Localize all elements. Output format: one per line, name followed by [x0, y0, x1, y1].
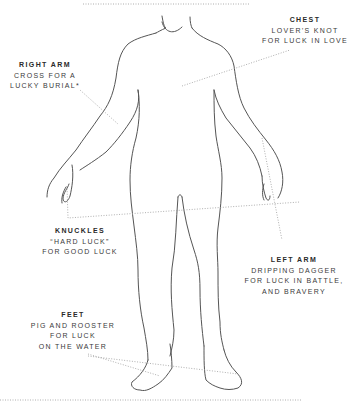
- chest-line-1: LOVER’S KNOT: [260, 26, 350, 37]
- neck-right: [190, 17, 192, 28]
- left-arm-outer: [192, 28, 283, 198]
- feet-line-1: PIG AND ROOSTER: [25, 321, 121, 332]
- crotch: [178, 195, 182, 197]
- right-arm-leader: [80, 90, 118, 124]
- chest-line-2: FOR LUCK IN LOVE: [260, 36, 350, 47]
- right-arm-title: RIGHT ARM: [5, 60, 85, 71]
- left-arm-inner: [214, 90, 262, 176]
- leg-inner-right: [182, 197, 204, 346]
- knuckles-line-2: FOR GOOD LUCK: [35, 247, 125, 258]
- chest-title: CHEST: [260, 15, 350, 26]
- left-arm-annotation: LEFT ARM DRIPPING DAGGER FOR LUCK IN BAT…: [238, 255, 350, 297]
- right-arm-inner: [80, 90, 139, 170]
- left-arm-title: LEFT ARM: [238, 255, 350, 266]
- feet-annotation: FEET PIG AND ROOSTER FOR LUCK ON THE WAT…: [25, 310, 121, 352]
- torso-right: [214, 90, 224, 350]
- leg-inner-left: [170, 197, 178, 356]
- right-arm-outer: [47, 33, 156, 197]
- right-arm-line-1: CROSS FOR A: [5, 71, 85, 82]
- knuckles-title: KNUCKLES: [35, 226, 125, 237]
- knuckles-line-1: “HARD LUCK”: [35, 237, 125, 248]
- feet-leader-2: [88, 356, 238, 374]
- chest-annotation: CHEST LOVER’S KNOT FOR LUCK IN LOVE: [260, 15, 350, 47]
- torso-left: [130, 90, 148, 360]
- right-foot: [131, 344, 172, 391]
- right-arm-line-2: LUCKY BURIAL*: [5, 81, 85, 92]
- neck-left: [156, 16, 166, 33]
- left-hand: [262, 176, 270, 200]
- feet-line-2: FOR LUCK: [25, 331, 121, 342]
- left-arm-line-2: FOR LUCK IN BATTLE,: [238, 276, 350, 287]
- right-arm-annotation: RIGHT ARM CROSS FOR A LUCKY BURIAL*: [5, 60, 85, 92]
- knuckles-annotation: KNUCKLES “HARD LUCK” FOR GOOD LUCK: [35, 226, 125, 258]
- feet-title: FEET: [25, 310, 121, 321]
- left-arm-line-3: AND BRAVERY: [238, 287, 350, 298]
- knuckles-leader: [67, 186, 300, 218]
- feet-line-3: ON THE WATER: [25, 342, 121, 353]
- left-foot: [204, 346, 242, 390]
- left-arm-line-1: DRIPPING DAGGER: [238, 266, 350, 277]
- left-arm-leader: [262, 138, 282, 240]
